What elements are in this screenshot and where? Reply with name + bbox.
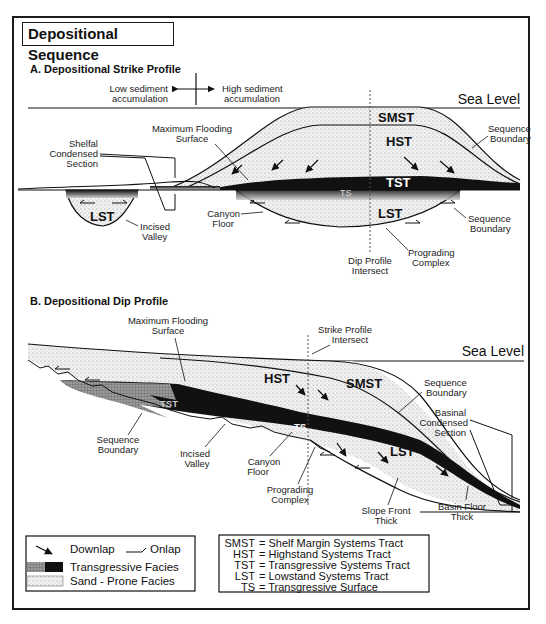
tst-label: TST [386,175,411,190]
dip-lst-label: LST [390,444,415,459]
dip-seq-boundary-right-label-2: Boundary [426,387,467,398]
smst-label: SMST [378,110,414,125]
prograding-complex-label-2: Complex [412,257,450,268]
incised-valley-label-2: Valley [142,231,167,242]
high-accumulation-label-2: accumulation [224,93,280,104]
hst-label: HST [386,134,412,149]
basin-floor-label-2: Thick [451,511,474,522]
strike-profile-heading: A. Depositional Strike Profile [30,63,181,75]
legend-sand: Sand - Prone Facies [70,575,175,587]
dip-tst-label: TST [160,398,178,409]
dip-mfs-label-2: Surface [152,325,185,336]
dip-profile-heading: B. Depositional Dip Profile [30,295,168,307]
legend-transgressive: Transgressive Facies [70,561,179,573]
strike-intersect-label-2: Intersect [332,334,369,345]
diagram-canvas: A. Depositional Strike Profile Low sedim… [0,0,546,624]
ts-label: TS [340,188,352,198]
basinal-condensed-label-3: Section [434,427,466,438]
strike-profile: A. Depositional Strike Profile Low sedim… [18,63,531,276]
dip-ts-label: TS [294,421,306,432]
dip-smst-label: SMST [346,376,382,391]
legend-onlap: Onlap [150,543,181,555]
valley-lst-label: LST [90,209,115,224]
shelfal-label-3: Section [66,158,98,169]
dip-hst-label: HST [264,371,290,386]
seq-boundary-bottom-label-2: Boundary [470,223,511,234]
dip-sea-level-label: Sea Level [462,343,524,359]
abbr-ts: TS [241,581,255,593]
seq-boundary-top-label-2: Boundary [490,133,531,144]
dip-incised-valley-label-2: Valley [184,458,209,469]
def-ts: = Transgressive Surface [259,581,378,593]
dip-canyon-floor-label-2: Floor [247,466,269,477]
legend-downlap: Downlap [70,543,115,555]
lst-label: LST [378,206,403,221]
transgressive-hatch-swatch [27,562,45,572]
mfs-label-2: Surface [176,133,209,144]
sea-level-label: Sea Level [458,91,520,107]
symbol-legend: Downlap Onlap Transgressive Facies Sand … [26,536,195,591]
dip-prograding-label-2: Complex [271,494,309,505]
dip-profile: B. Depositional Dip Profile Sea Level [28,295,524,526]
accumulation-axis: Low sediment accumulation High sediment … [109,73,283,105]
dip-seq-boundary-left-label-2: Boundary [98,444,139,455]
transgressive-solid-swatch [45,562,63,572]
canyon-floor-label-2: Floor [212,218,234,229]
abbreviation-legend: SMST = Shelf Margin Systems Tract HST = … [219,535,429,593]
slope-front-label-2: Thick [375,515,398,526]
dip-intersect-label-2: Intersect [352,265,389,276]
sand-swatch [27,576,63,586]
low-accumulation-label-2: accumulation [112,93,168,104]
